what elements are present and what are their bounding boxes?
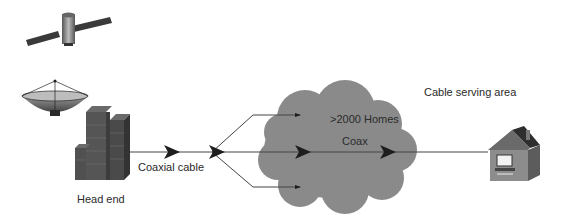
- label-homes: >2000 Homes: [330, 113, 399, 125]
- label-head-end: Head end: [77, 193, 125, 205]
- label-coax: Coax: [342, 135, 368, 147]
- label-coaxial-cable: Coaxial cable: [138, 161, 204, 173]
- cloud-icon: [258, 80, 417, 214]
- diagram-canvas: [0, 0, 561, 220]
- house-icon: [488, 126, 540, 181]
- satellite-dish-icon: [22, 80, 88, 117]
- label-cable-serving-area: Cable serving area: [424, 86, 516, 98]
- satellite-icon: [26, 13, 112, 47]
- building-icon: [75, 106, 130, 180]
